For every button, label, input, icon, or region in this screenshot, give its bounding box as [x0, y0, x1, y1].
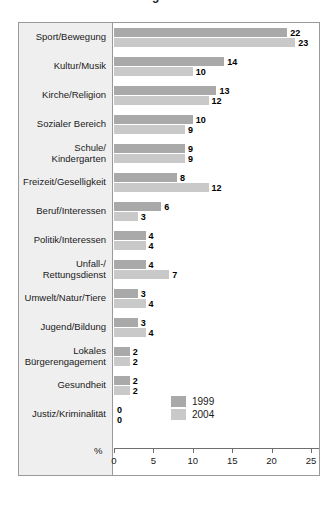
bar-value-label: 2 [133, 387, 138, 396]
bar-group: 109 [114, 115, 319, 134]
bar-value-label: 9 [188, 155, 193, 164]
axis-tick-label: 25 [306, 455, 317, 466]
bar-1999 [114, 115, 193, 124]
bar-1999 [114, 173, 177, 182]
bar-value-label: 7 [172, 271, 177, 280]
bar-group: 44 [114, 231, 319, 250]
bar-value-label: 4 [149, 261, 154, 270]
category-label: Gesundheit [57, 380, 106, 391]
axis-tick [114, 448, 115, 453]
category-label: Freizeit/Geselligkeit [23, 177, 106, 188]
bar-rows: 222314101312109998126344473434222200 [114, 23, 319, 430]
axis-percent-label: % [94, 445, 102, 456]
axis-tick-label: 20 [266, 455, 277, 466]
bar-value-label: 2 [133, 348, 138, 357]
bar-1999 [114, 260, 146, 269]
category-label: Kultur/Musik [54, 61, 106, 72]
axis-tick [272, 448, 273, 453]
bar-value-label: 22 [290, 29, 300, 38]
bar-1999 [114, 28, 287, 37]
bar-value-label: 8 [180, 174, 185, 183]
bar-group: 1410 [114, 57, 319, 76]
category-label: Unfall-/ Rettungsdienst [43, 259, 106, 280]
bar-2004 [114, 299, 146, 308]
bar-1999 [114, 347, 130, 356]
bar-value-label: 12 [212, 97, 222, 106]
legend-item-1999: 1999 [171, 395, 245, 408]
bar-value-label: 3 [141, 290, 146, 299]
bar-group: 63 [114, 202, 319, 221]
bar-value-label: 10 [196, 116, 206, 125]
bar-value-label: 14 [227, 58, 237, 67]
category-label: Umwelt/Natur/Tiere [25, 293, 106, 304]
bar-value-label: 12 [212, 184, 222, 193]
bar-2004 [114, 270, 169, 279]
bar-1999 [114, 144, 185, 153]
axis-tick [153, 448, 154, 453]
axis-tick-label: 10 [188, 455, 199, 466]
bar-value-label: 23 [298, 39, 308, 48]
bar-1999 [114, 318, 138, 327]
bar-value-label: 4 [149, 242, 154, 251]
bar-2004 [114, 241, 146, 250]
axis-tick [232, 448, 233, 453]
legend-label-1999: 1999 [192, 395, 214, 408]
bar-value-label: 9 [188, 145, 193, 154]
bar-2004 [114, 386, 130, 395]
bar-value-label: 4 [149, 329, 154, 338]
bar-value-label: 4 [149, 232, 154, 241]
bar-2004 [114, 67, 193, 76]
bar-1999 [114, 202, 161, 211]
bar-value-label: 0 [117, 416, 122, 425]
bar-2004 [114, 212, 138, 221]
legend-item-2004: 2004 [171, 408, 245, 421]
axis-tick-label: 15 [227, 455, 238, 466]
category-label: Sport/Bewegung [36, 32, 106, 43]
axis-tick [311, 448, 312, 453]
bar-1999 [114, 289, 138, 298]
bar-group: 34 [114, 289, 319, 308]
bar-group: 2223 [114, 28, 319, 47]
legend: 1999 2004 [171, 395, 245, 421]
category-label: Jugend/Bildung [41, 322, 107, 333]
bar-value-label: 2 [133, 377, 138, 386]
bar-1999 [114, 57, 224, 66]
bar-group: 34 [114, 318, 319, 337]
axis-tick-label: 5 [151, 455, 156, 466]
bar-value-label: 0 [117, 406, 122, 415]
bar-value-label: 6 [164, 203, 169, 212]
bar-2004 [114, 96, 209, 105]
bar-group: 47 [114, 260, 319, 279]
category-label: Kirche/Religion [42, 90, 106, 101]
bar-group: 812 [114, 173, 319, 192]
x-axis: 0510152025 [114, 448, 319, 449]
bar-1999 [114, 86, 216, 95]
bar-value-label: 10 [196, 68, 206, 77]
bar-1999 [114, 231, 146, 240]
axis-tick-label: 0 [111, 455, 116, 466]
legend-label-2004: 2004 [192, 408, 214, 421]
category-label: Lokales Bürgerengagement [25, 346, 106, 367]
bar-value-label: 3 [141, 213, 146, 222]
bar-group: 99 [114, 144, 319, 163]
category-label-panel: Sport/BewegungKultur/MusikKirche/Religio… [19, 23, 113, 475]
bar-value-label: 2 [133, 358, 138, 367]
category-label: Schule/ Kindergarten [52, 143, 106, 164]
bar-2004 [114, 38, 295, 47]
legend-swatch-2004 [171, 409, 186, 420]
bar-group: 1312 [114, 86, 319, 105]
bar-value-label: 4 [149, 300, 154, 309]
category-label: Politik/Interessen [34, 235, 106, 246]
bar-2004 [114, 328, 146, 337]
category-label: Justiz/Kriminalität [32, 409, 106, 420]
bar-value-label: 13 [219, 87, 229, 96]
legend-swatch-1999 [171, 396, 186, 407]
chart-frame: Sport/BewegungKultur/MusikKirche/Religio… [18, 22, 320, 476]
title-fragment: g [0, 0, 334, 10]
category-label: Sozialer Bereich [37, 119, 106, 130]
bar-1999 [114, 376, 130, 385]
bar-value-label: 3 [141, 319, 146, 328]
title-fragment-text: g [152, 0, 160, 3]
category-label: Beruf/Interessen [36, 206, 106, 217]
bar-2004 [114, 183, 209, 192]
